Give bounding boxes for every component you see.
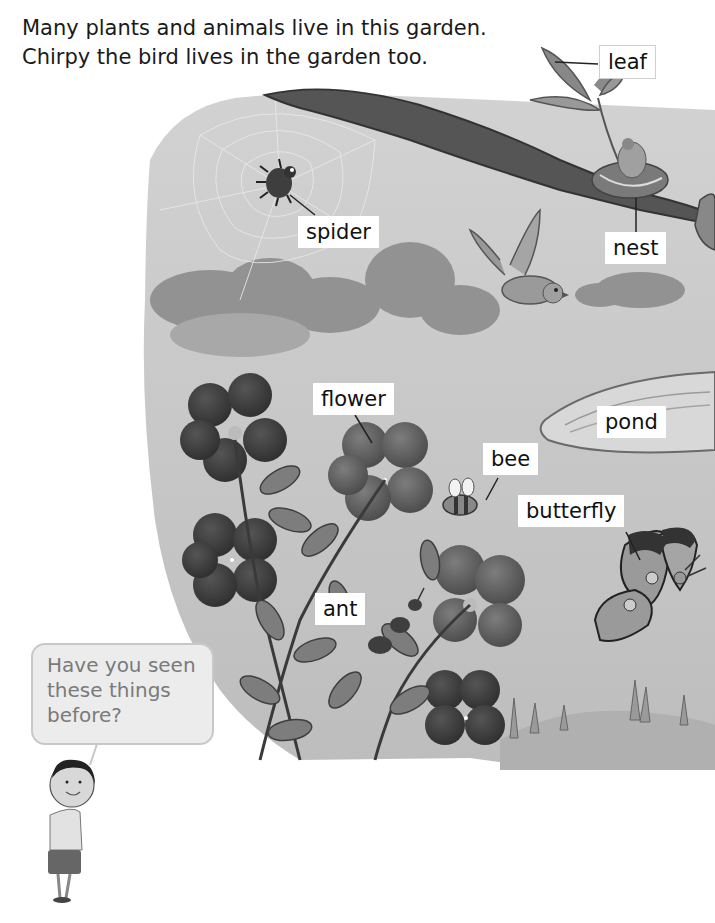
label-spider: spider — [298, 216, 379, 248]
label-flower: flower — [313, 383, 394, 415]
boy-icon — [48, 735, 100, 903]
label-bee: bee — [483, 443, 538, 475]
label-pond: pond — [597, 406, 666, 438]
garden-illustration — [0, 0, 715, 923]
label-leaf: leaf — [600, 46, 655, 78]
speech-line-3: before? — [47, 703, 198, 728]
speech-line-1: Have you seen — [47, 653, 198, 678]
speech-line-2: these things — [47, 678, 198, 703]
label-ant: ant — [315, 593, 365, 625]
label-butterfly: butterfly — [518, 495, 624, 527]
speech-bubble: Have you seen these things before? — [31, 643, 214, 745]
label-nest: nest — [605, 232, 666, 264]
